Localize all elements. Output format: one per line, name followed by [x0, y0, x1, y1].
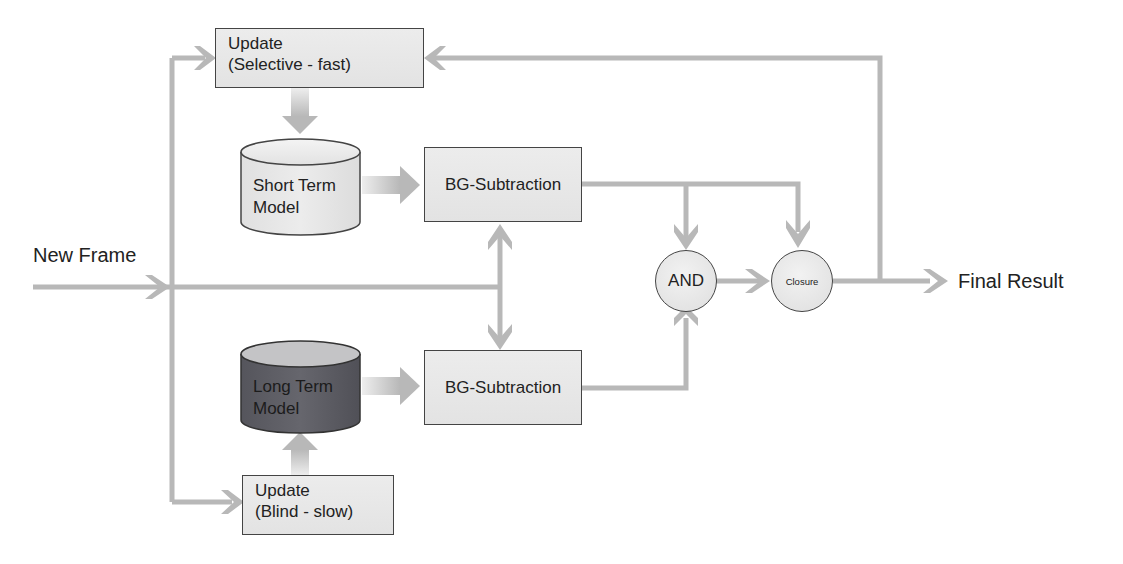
- long-term-line2: Model: [253, 398, 333, 420]
- update-slow-line2: (Blind - slow): [255, 501, 393, 522]
- update-fast-line1: Update: [228, 33, 423, 54]
- update-fast-line2: (Selective - fast): [228, 54, 423, 75]
- update-slow-line1: Update: [255, 480, 393, 501]
- and-label: AND: [668, 271, 704, 291]
- closure-label: Closure: [786, 276, 819, 287]
- bg-sub-top-label: BG-Subtraction: [445, 174, 561, 195]
- short-term-line1: Short Term: [253, 175, 336, 197]
- and-node[interactable]: AND: [655, 250, 717, 312]
- long-term-model-node[interactable]: Long Term Model: [253, 376, 333, 420]
- new-frame-label: New Frame: [33, 244, 136, 267]
- bg-sub-bottom-label: BG-Subtraction: [445, 377, 561, 398]
- short-term-model-node[interactable]: Short Term Model: [253, 175, 336, 219]
- final-result-label: Final Result: [958, 270, 1064, 293]
- update-selective-fast-node[interactable]: Update (Selective - fast): [215, 28, 424, 88]
- closure-node[interactable]: Closure: [771, 250, 833, 312]
- connection-wires: [0, 0, 1123, 564]
- update-blind-slow-node[interactable]: Update (Blind - slow): [242, 475, 394, 535]
- short-term-line2: Model: [253, 197, 336, 219]
- long-term-line1: Long Term: [253, 376, 333, 398]
- bg-subtraction-top-node[interactable]: BG-Subtraction: [424, 147, 582, 222]
- bg-subtraction-bottom-node[interactable]: BG-Subtraction: [424, 350, 582, 425]
